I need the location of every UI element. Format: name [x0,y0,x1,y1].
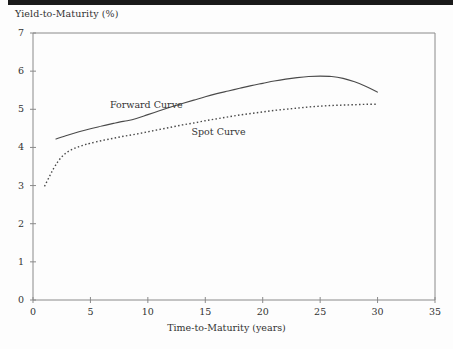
y-tick-label: 5 [8,103,24,114]
x-tick-label: 10 [138,306,158,317]
x-tick-label: 5 [80,306,100,317]
y-tick-label: 3 [8,180,24,191]
x-tick-label: 30 [368,306,388,317]
axes-group [30,33,435,303]
curve-annotation-spot-curve: Spot Curve [192,126,246,137]
x-tick-label: 25 [310,306,330,317]
x-tick-label: 35 [425,306,445,317]
x-axis-title: Time-to-Maturity (years) [0,322,453,333]
y-tick-label: 7 [8,27,24,38]
y-tick-label: 2 [8,218,24,229]
y-tick-label: 0 [8,294,24,305]
y-tick-label: 6 [8,65,24,76]
series-line-spot-curve [44,104,377,186]
y-tick-label: 4 [8,141,24,152]
y-tick-label: 1 [8,256,24,267]
chart-plot [0,0,453,349]
x-tick-label: 0 [23,306,43,317]
x-tick-label: 20 [253,306,273,317]
curve-annotation-forward-curve: Forward Curve [110,99,183,110]
figure-canvas: Yield-to-Maturity (%) 01234567 051015202… [0,0,453,349]
x-tick-label: 15 [195,306,215,317]
